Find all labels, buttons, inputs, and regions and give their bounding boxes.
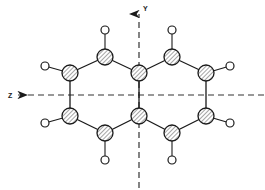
hydrogen-atom <box>41 119 49 127</box>
hydrogen-atom <box>226 119 234 127</box>
hydrogen-atom <box>168 26 176 34</box>
hydrogen-atom <box>226 62 234 70</box>
carbon-atom <box>198 65 214 81</box>
carbon-atom <box>62 108 78 124</box>
carbon-atom <box>164 125 180 141</box>
carbon-atom <box>97 125 113 141</box>
carbon-atom <box>62 65 78 81</box>
hydrogen-atom <box>101 26 109 34</box>
hydrogen-atom <box>41 62 49 70</box>
hydrogen-atom <box>168 156 176 164</box>
carbon-atom <box>198 108 214 124</box>
carbon-atom <box>164 49 180 65</box>
y-axis-label: Y <box>143 5 148 12</box>
molecular-structure-figure: YZ <box>0 0 265 190</box>
hydrogen-atom <box>101 156 109 164</box>
carbon-atom <box>131 108 147 124</box>
diagram-canvas: YZ <box>0 0 265 190</box>
carbon-atom <box>97 49 113 65</box>
carbon-atom <box>131 65 147 81</box>
z-axis-label: Z <box>8 92 13 99</box>
